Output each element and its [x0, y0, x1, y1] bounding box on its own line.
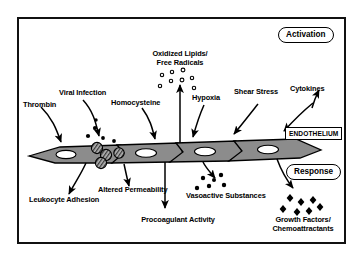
- arrow-altered-permeability: [124, 164, 129, 186]
- growth-factor-diamond: [280, 205, 287, 213]
- cell-nucleus: [258, 145, 279, 153]
- response-badge: Response: [286, 164, 341, 180]
- arrow-vasoactive-substances: [203, 162, 215, 178]
- arrow-viral-infection: [83, 100, 99, 136]
- stimulus-particle: [93, 126, 97, 130]
- arrow-shear-stress: [234, 104, 258, 134]
- label-viral-infection: Viral Infection: [59, 89, 106, 98]
- growth-factor-diamond: [310, 196, 317, 204]
- free-radical-particle: [181, 68, 185, 72]
- free-radical-particle: [160, 73, 163, 76]
- stimulus-particle: [86, 134, 90, 138]
- free-radical-particle: [180, 78, 184, 82]
- growth-factor-diamond: [306, 207, 313, 215]
- vasoactive-particle: [207, 184, 211, 188]
- stimulus-arrows: [41, 100, 313, 142]
- arrow-hypoxia: [193, 105, 204, 137]
- vasoactive-particle: [201, 176, 205, 180]
- free-radical-particle: [169, 79, 172, 82]
- stimulus-particle: [94, 118, 97, 121]
- label-chemoattractants: Chemoattractants: [272, 225, 333, 234]
- label-shear-stress: Shear Stress: [234, 88, 278, 97]
- label-thrombin: Thrombin: [23, 101, 56, 110]
- free-radical-particle: [192, 86, 195, 89]
- vasoactive-particle: [219, 173, 223, 177]
- arrow-homocysteine: [142, 108, 155, 139]
- label-free-radicals: Free Radicals: [157, 59, 204, 68]
- leukocyte: [95, 157, 106, 168]
- leukocyte: [114, 148, 124, 158]
- label-hypoxia: Hypoxia: [192, 94, 220, 103]
- stimulus-particle: [112, 139, 116, 143]
- vasoactive-particle: [222, 183, 226, 187]
- arrow-thrombin: [41, 107, 61, 142]
- label-procoagulant-activity: Procoagulant Activity: [141, 216, 215, 225]
- stimulus-particles: [86, 118, 116, 143]
- vasoactive-particles: [195, 173, 226, 190]
- label-vasoactive-substances: Vasoactive Substances: [186, 192, 266, 201]
- growth-factor-particles: [280, 194, 324, 216]
- free-radical-particle: [190, 76, 193, 79]
- stimulus-particle: [101, 136, 105, 140]
- vasoactive-particle: [212, 178, 216, 182]
- growth-factor-diamond: [317, 203, 324, 211]
- growth-factor-diamond: [287, 194, 294, 202]
- endothelial-activation-diagram: Thrombin Viral Infection Homocysteine Ox…: [0, 0, 363, 260]
- cell-nucleus: [195, 147, 216, 155]
- free-radical-particles: [158, 68, 195, 90]
- activation-badge: Activation: [278, 27, 334, 43]
- endothelium-label: ENDOTHELIUM: [285, 127, 342, 140]
- cell-nucleus: [136, 149, 157, 157]
- growth-factor-diamond: [298, 198, 305, 206]
- free-radical-particle: [170, 70, 173, 73]
- label-homocysteine: Homocysteine: [111, 99, 160, 108]
- vasoactive-particle: [195, 186, 199, 190]
- label-cytokines: Cytokines: [290, 85, 324, 94]
- cell-nucleus: [56, 150, 76, 158]
- free-radical-particle: [158, 84, 161, 87]
- arrow-leukocyte-adhesion: [69, 163, 86, 194]
- label-leukocyte-adhesion: Leukocyte Adhesion: [29, 196, 99, 205]
- label-altered-permeability: Altered Permeability: [98, 186, 167, 195]
